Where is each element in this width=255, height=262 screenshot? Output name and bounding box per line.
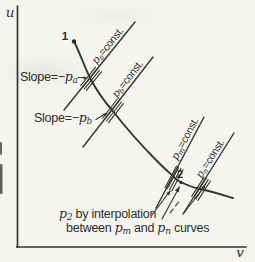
x-axis-label: v: [236, 244, 244, 260]
iso-label-pm: pm=const.: [168, 115, 202, 162]
scan-edge-artifact: [0, 164, 3, 194]
scan-smudge: [70, 3, 166, 29]
slope-pb-arrow: [96, 115, 104, 120]
pointer-line-pn: [184, 188, 204, 214]
note-line-1: p2 by interpolation: [59, 206, 157, 222]
uv-diagram: u v 1 2 pa=const. pb=const. pm=const. pn…: [0, 0, 255, 262]
pointer-p2-arrowhead-icon: [175, 186, 180, 193]
iso-label-pb: pb=const.: [109, 57, 147, 100]
point-2-dot: [179, 181, 182, 184]
point-1-label: 1: [62, 30, 69, 42]
iso-label-pa: pa=const.: [89, 25, 127, 68]
pointer-line-p2: [162, 191, 178, 220]
note-line-2: between pm and pn curves: [66, 220, 209, 236]
scan-edge-artifact: [0, 142, 2, 155]
point-1-dot: [72, 39, 76, 43]
point-2-label: 2: [177, 168, 183, 180]
slope-pa-label: Slope=−pa: [20, 69, 78, 85]
iso-label-pn: pn=const.: [193, 137, 228, 181]
figure-canvas: u v 1 2 pa=const. pb=const. pm=const. pn…: [0, 0, 255, 262]
slope-pb-label: Slope=−pb: [34, 110, 93, 126]
iso-line-pm: [156, 117, 204, 208]
y-axis-label: u: [6, 4, 15, 20]
